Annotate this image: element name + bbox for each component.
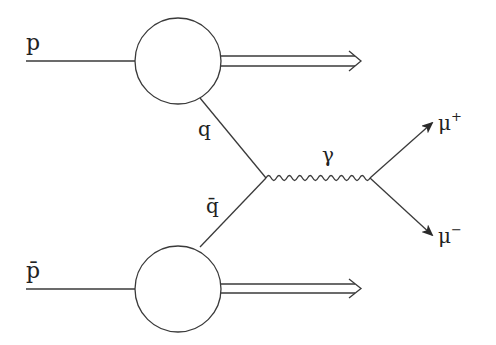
proton-label: p <box>26 30 40 55</box>
antiproton-label: p̄ <box>26 258 40 283</box>
muon-minus-label: μ− <box>438 222 462 248</box>
muon-plus-line <box>370 123 432 178</box>
antiquark-label: q̄ <box>206 194 219 218</box>
muon-minus-line <box>370 178 432 235</box>
proton-remnant-arrow <box>221 51 361 71</box>
antiproton-blob <box>135 246 221 332</box>
photon-propagator <box>266 176 370 181</box>
proton-blob <box>135 18 221 104</box>
antiproton-remnant-arrow <box>221 279 361 298</box>
quark-label: q <box>198 117 211 141</box>
feynman-diagram: p p̄ q q̄ γ μ+ μ− <box>0 0 496 345</box>
photon-label: γ <box>322 143 334 167</box>
muon-plus-label: μ+ <box>438 109 462 135</box>
